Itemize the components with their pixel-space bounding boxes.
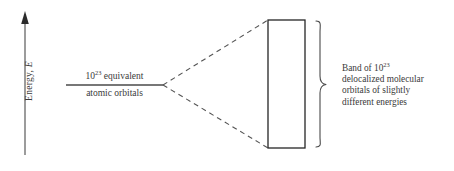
band-caption-line-3: orbitals of slightly: [342, 85, 454, 96]
atomic-orbital-count-base: 10: [86, 71, 96, 81]
band-caption: Band of 1023 delocalized molecular orbit…: [342, 63, 454, 108]
energy-axis-label-symbol: E: [24, 61, 34, 67]
dashed-connector-lower: [163, 85, 268, 148]
band-caption-line-4: different energies: [342, 97, 454, 108]
band-brace: [316, 21, 326, 147]
band-caption-line-1: Band of 1023: [342, 63, 454, 74]
band-caption-count-base: Band of 10: [342, 63, 383, 73]
atomic-orbitals-label: atomic orbitals: [62, 88, 167, 98]
energy-band-rectangle: [268, 20, 305, 148]
energy-axis-label: Energy, E: [24, 26, 34, 136]
band-theory-diagram: Energy, E 1023 equivalent atomic orbital…: [0, 0, 454, 171]
dashed-connector-upper: [163, 20, 268, 85]
energy-axis-arrowhead: [21, 11, 29, 24]
band-caption-count-exponent: 23: [383, 61, 389, 68]
energy-axis-label-text: Energy,: [24, 67, 34, 101]
atomic-orbital-count-suffix: equivalent: [101, 71, 143, 81]
atomic-orbital-count-label: 1023 equivalent: [62, 71, 167, 81]
band-caption-line-2: delocalized molecular: [342, 74, 454, 85]
